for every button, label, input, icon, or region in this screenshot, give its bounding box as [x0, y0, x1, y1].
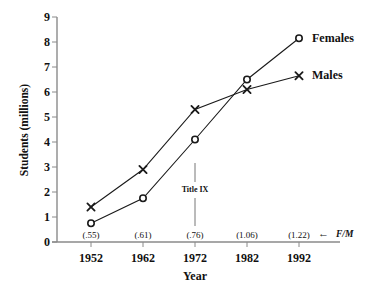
- fm-ratio-1962: (.61): [134, 230, 151, 240]
- y-tick-label-4: 4: [44, 135, 50, 149]
- x-tick-label-1972: 1972: [183, 251, 207, 265]
- y-tick-label-7: 7: [44, 60, 50, 74]
- data-point-males-1972: [191, 106, 198, 113]
- series-label-females: Females: [312, 31, 354, 45]
- x-axis-ticks: [91, 242, 299, 247]
- fm-ratio-1972: (.76): [186, 230, 203, 240]
- data-point-females-1992: [296, 35, 302, 41]
- data-point-females-1972: [192, 136, 198, 142]
- x-tick-label-1962: 1962: [131, 251, 155, 265]
- y-tick-label-8: 8: [44, 35, 50, 49]
- left-arrow-icon: ←: [318, 227, 329, 239]
- x-axis-title: Year: [183, 269, 208, 283]
- title-ix-label: Title IX: [182, 185, 209, 194]
- y-tick-label-9: 9: [44, 10, 50, 24]
- y-tick-label-6: 6: [44, 85, 50, 99]
- data-point-males-1952: [87, 203, 94, 210]
- data-point-females-1962: [140, 195, 146, 201]
- y-axis-ticks: [52, 17, 57, 242]
- x-tick-label-1992: 1992: [287, 251, 311, 265]
- series-label-males: Males: [312, 68, 343, 82]
- data-point-males-1992: [295, 72, 302, 79]
- y-tick-label-3: 3: [44, 160, 50, 174]
- chart-container: Students (millions) 9 8 7 6 5 4 3 2 1 0: [0, 0, 370, 286]
- data-point-females-1952: [88, 220, 94, 226]
- fm-ratio-legend-label: F/M: [335, 229, 354, 239]
- data-point-females-1982: [244, 76, 250, 82]
- data-point-males-1962: [139, 166, 146, 173]
- x-tick-label-1982: 1982: [235, 251, 259, 265]
- x-tick-label-1952: 1952: [79, 251, 103, 265]
- y-tick-label-2: 2: [44, 185, 50, 199]
- fm-ratio-1992: (1.22): [288, 230, 310, 240]
- y-tick-label-5: 5: [44, 110, 50, 124]
- fm-ratio-1952: (.55): [82, 230, 99, 240]
- series-markers-females: [88, 35, 302, 226]
- title-ix-annotation: Title IX: [182, 163, 209, 226]
- y-axis-title: Students (millions): [18, 84, 31, 177]
- y-tick-label-0: 0: [44, 235, 50, 249]
- data-point-males-1982: [243, 86, 250, 93]
- series-line-females: [91, 38, 299, 223]
- line-chart-svg: Students (millions) 9 8 7 6 5 4 3 2 1 0: [0, 0, 370, 286]
- fm-ratio-1982: (1.06): [236, 230, 258, 240]
- y-tick-label-1: 1: [44, 210, 50, 224]
